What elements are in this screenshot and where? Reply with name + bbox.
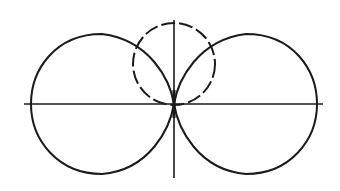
polar-diagram bbox=[0, 0, 340, 191]
